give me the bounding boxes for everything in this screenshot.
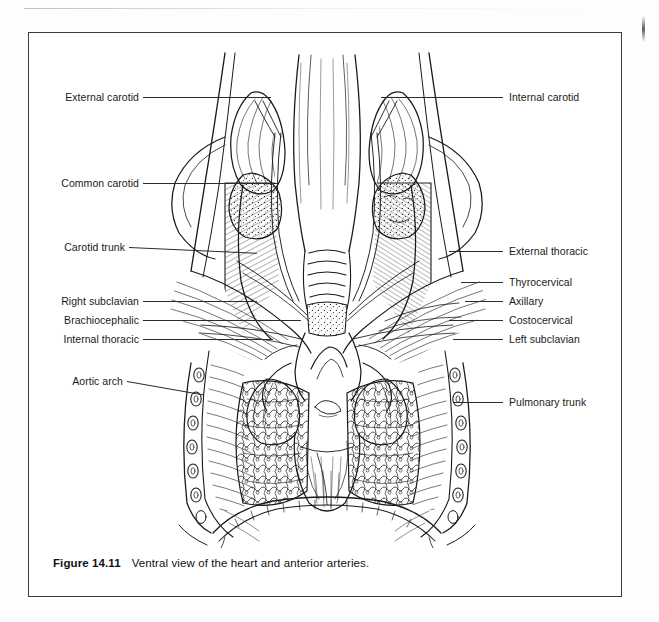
leader-thyrocervical — [461, 282, 503, 283]
anatomy-illustration-svg — [29, 33, 623, 548]
label-brachiocephalic: Brachiocephalic — [29, 315, 139, 325]
leader-brachiocephalic — [143, 320, 301, 321]
label-costocervical: Costocervical — [509, 315, 573, 325]
figure-frame: External carotid Common carotid Carotid … — [28, 32, 622, 597]
figure-number: Figure 14.11 — [53, 557, 121, 569]
scanned-page: External carotid Common carotid Carotid … — [0, 0, 659, 622]
label-internal-thoracic: Internal thoracic — [29, 334, 139, 344]
leader-pulmonary-trunk — [453, 402, 503, 403]
leader-left-subclavian — [453, 339, 503, 340]
leader-external-thoracic — [449, 251, 503, 252]
leader-common-carotid — [143, 183, 277, 184]
label-thyrocervical: Thyrocervical — [509, 277, 572, 287]
figure-caption-text: Ventral view of the heart and anterior a… — [132, 557, 369, 569]
scan-artifact-mark — [642, 16, 645, 42]
label-external-carotid: External carotid — [29, 92, 139, 102]
leader-costocervical — [449, 320, 503, 321]
label-internal-carotid: Internal carotid — [509, 92, 579, 102]
label-axillary: Axillary — [509, 296, 543, 306]
leader-external-carotid — [143, 97, 271, 98]
figure-caption: Figure 14.11Ventral view of the heart an… — [53, 557, 369, 569]
leader-axillary — [465, 301, 503, 302]
label-pulmonary-trunk: Pulmonary trunk — [509, 397, 586, 407]
label-common-carotid: Common carotid — [29, 178, 139, 188]
label-aortic-arch: Aortic arch — [29, 376, 123, 386]
leader-right-subclavian — [143, 301, 257, 302]
leader-internal-carotid — [381, 97, 503, 98]
leader-internal-thoracic — [143, 339, 273, 340]
figure-illustration: External carotid Common carotid Carotid … — [29, 33, 623, 548]
label-carotid-trunk: Carotid trunk — [29, 242, 125, 252]
label-right-subclavian: Right subclavian — [29, 296, 139, 306]
label-external-thoracic: External thoracic — [509, 246, 588, 256]
scan-artifact-line — [24, 8, 584, 9]
label-left-subclavian: Left subclavian — [509, 334, 580, 344]
